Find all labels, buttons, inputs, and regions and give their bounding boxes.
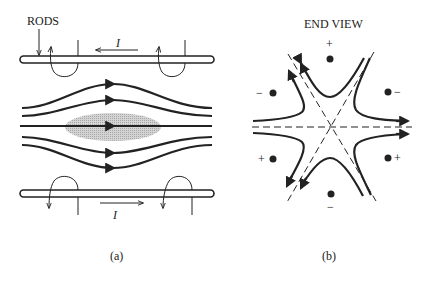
caption-b: (b) (322, 249, 336, 263)
charge-lower-right: + (394, 151, 401, 165)
charge-upper-left: − (256, 86, 263, 100)
rod-dot-lower-left (270, 156, 277, 163)
field-line-top (301, 58, 364, 97)
charge-lower-left: + (258, 152, 265, 166)
rods-label: RODS (27, 14, 59, 28)
field-line-1 (22, 84, 212, 108)
rod-dot-bottom (328, 191, 335, 198)
panel-a: RODS I I (a) (20, 14, 214, 263)
rod-dot-upper-left (270, 90, 277, 97)
panel-b: END VIEW + − − + + (252, 17, 412, 263)
field-arrow-upper-left (289, 71, 294, 82)
quadrupole-figure: RODS I I (a) END VIEW (0, 0, 427, 281)
rod-dot-lower-right (385, 155, 392, 162)
field-line-5 (22, 145, 212, 168)
rod-dot-upper-right (385, 89, 392, 96)
charge-bottom: − (327, 200, 334, 214)
top-current-label: I (115, 36, 121, 50)
rod-dot-top (327, 56, 334, 63)
field-arrow-lower-left (287, 176, 292, 186)
field-arrow-bottom (301, 178, 306, 188)
end-view-title: END VIEW (304, 17, 363, 31)
charge-upper-right: − (394, 85, 401, 99)
bottom-current-label: I (112, 208, 118, 222)
top-rod (20, 56, 214, 63)
dashed-axis-diag-2 (286, 52, 374, 204)
caption-a: (a) (110, 249, 123, 263)
charge-top: + (326, 37, 333, 51)
